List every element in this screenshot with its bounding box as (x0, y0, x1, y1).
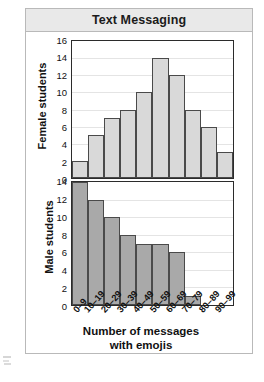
bar-slot (185, 41, 201, 178)
y-tick-label: 6 (62, 247, 67, 258)
y-tick-label: 8 (62, 229, 67, 240)
bar-slot (104, 41, 120, 178)
chart-title-bar: Text Messaging (26, 9, 252, 32)
scan-artifact (3, 356, 11, 365)
chart-title: Text Messaging (92, 13, 186, 27)
bar-slot (136, 41, 152, 178)
bar-slot (201, 41, 217, 178)
y-tick-label: 16 (56, 35, 67, 46)
bar-slot (185, 182, 201, 305)
plot-area-male (71, 181, 234, 306)
bar-slot (104, 182, 120, 305)
bar-group-female (72, 41, 233, 178)
bar-slot (136, 182, 152, 305)
x-axis-title: Number of messages with emojis (46, 325, 236, 352)
figure-card: Text Messaging Frequency Female students… (25, 8, 253, 354)
bar-10-19 (88, 135, 104, 178)
bar-0-9 (72, 161, 88, 178)
bar-70-79 (185, 110, 201, 179)
bar-slot (217, 182, 233, 305)
bar-50-59 (152, 58, 168, 178)
bar-slot (152, 41, 168, 178)
y-tick-label: 12 (56, 69, 67, 80)
panel-female-students: Female students 1614121086420 (71, 40, 234, 179)
x-axis-title-line1: Number of messages (46, 325, 236, 339)
y-tick-label: 2 (62, 283, 67, 294)
bar-80-89 (201, 127, 217, 178)
y-tick-label: 10 (56, 87, 67, 98)
bar-group-male (72, 182, 233, 305)
bar-slot (72, 41, 88, 178)
bar-10-19 (88, 200, 104, 305)
bar-slot (88, 41, 104, 178)
bar-20-29 (104, 118, 120, 178)
y-tick-label: 4 (62, 265, 67, 276)
bar-slot (120, 41, 136, 178)
bar-slot (152, 182, 168, 305)
x-axis-title-line2: with emojis (46, 339, 236, 353)
bar-90-99 (217, 152, 233, 178)
y-tick-label: 4 (62, 139, 67, 150)
bar-slot (217, 41, 233, 178)
bar-60-69 (169, 75, 185, 178)
y-axis-ticks-male: 14121086420 (47, 181, 67, 306)
bar-slot (169, 182, 185, 305)
bar-slot (120, 182, 136, 305)
y-tick-label: 10 (56, 211, 67, 222)
bar-0-9 (72, 182, 88, 305)
y-tick-label: 6 (62, 121, 67, 132)
bar-30-39 (120, 110, 136, 179)
bar-slot (201, 182, 217, 305)
panel-male-students: Male students 14121086420 (71, 181, 234, 306)
y-tick-label: 2 (62, 156, 67, 167)
y-tick-label: 8 (62, 104, 67, 115)
bar-slot (72, 182, 88, 305)
y-tick-label: 12 (56, 193, 67, 204)
bar-slot (88, 182, 104, 305)
y-tick-label: 14 (56, 176, 67, 187)
bar-40-49 (136, 92, 152, 178)
y-axis-ticks-female: 1614121086420 (47, 40, 67, 179)
y-tick-label: 0 (62, 301, 67, 312)
y-tick-label: 14 (56, 52, 67, 63)
plot-area-female (71, 40, 234, 179)
bar-slot (169, 41, 185, 178)
